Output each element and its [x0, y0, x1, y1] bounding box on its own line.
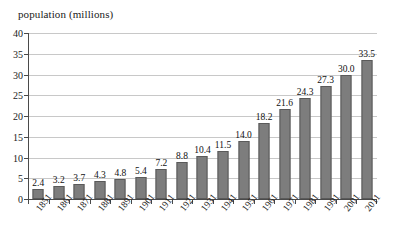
x-axis-labels-group: 1851186118711881189119011911192119311941… — [28, 199, 377, 247]
bar-value-label: 24.3 — [297, 87, 314, 97]
bar[interactable] — [341, 75, 352, 200]
bar[interactable] — [320, 86, 331, 199]
bar-slot: 3.7 — [69, 33, 90, 199]
bar-slot: 7.2 — [151, 33, 172, 199]
bar-value-label: 4.3 — [94, 170, 106, 180]
bar-value-label: 10.4 — [194, 145, 211, 155]
bar-slot: 4.8 — [110, 33, 131, 199]
y-tick-label: 10 — [13, 152, 23, 163]
bar-slot: 21.6 — [274, 33, 295, 199]
bars-group: 2.43.23.74.34.85.47.28.810.411.514.018.2… — [28, 33, 377, 199]
bar-value-label: 14.0 — [235, 130, 252, 140]
population-bar-chart: population (millions) 0510152025303540 2… — [0, 0, 393, 247]
bar-slot: 5.4 — [131, 33, 152, 199]
chart-title: population (millions) — [18, 8, 113, 20]
bar-value-label: 33.5 — [358, 49, 375, 59]
bar-value-label: 3.7 — [73, 173, 85, 183]
y-tick-label: 25 — [13, 90, 23, 101]
bar[interactable] — [300, 98, 311, 199]
bar-value-label: 4.8 — [114, 168, 126, 178]
bar-value-label: 7.2 — [155, 158, 167, 168]
bar-slot: 30.0 — [336, 33, 357, 199]
plot-area: 0510152025303540 2.43.23.74.34.85.47.28.… — [28, 33, 377, 199]
bar[interactable] — [279, 109, 290, 199]
y-tick-label: 5 — [18, 173, 23, 184]
y-tick-label: 0 — [18, 194, 23, 205]
bar-value-label: 8.8 — [176, 151, 188, 161]
bar-slot: 27.3 — [315, 33, 336, 199]
bar-value-label: 27.3 — [317, 75, 334, 85]
bar-value-label: 18.2 — [256, 112, 273, 122]
y-tick-label: 35 — [13, 48, 23, 59]
bar-slot: 2.4 — [28, 33, 49, 199]
bar[interactable] — [361, 60, 372, 199]
bar-value-label: 5.4 — [135, 166, 147, 176]
y-tick-label: 30 — [13, 69, 23, 80]
bar-slot: 14.0 — [233, 33, 254, 199]
y-tick-label: 15 — [13, 131, 23, 142]
bar-value-label: 2.4 — [32, 178, 44, 188]
bar-value-label: 11.5 — [215, 140, 231, 150]
bar[interactable] — [218, 151, 229, 199]
bar-slot: 3.2 — [49, 33, 70, 199]
bar[interactable] — [259, 123, 270, 199]
bar-slot: 4.3 — [90, 33, 111, 199]
bar-value-label: 30.0 — [338, 64, 355, 74]
bar-slot: 10.4 — [192, 33, 213, 199]
bar[interactable] — [176, 162, 187, 199]
y-tick-label: 20 — [13, 111, 23, 122]
bar[interactable] — [238, 141, 249, 199]
bar-slot: 24.3 — [295, 33, 316, 199]
y-tick-label: 40 — [13, 28, 23, 39]
bar-slot: 11.5 — [213, 33, 234, 199]
bar-slot: 33.5 — [356, 33, 377, 199]
bar[interactable] — [197, 156, 208, 199]
bar-value-label: 3.2 — [53, 175, 65, 185]
bar-slot: 8.8 — [172, 33, 193, 199]
bar-slot: 18.2 — [254, 33, 275, 199]
bar-value-label: 21.6 — [276, 98, 293, 108]
